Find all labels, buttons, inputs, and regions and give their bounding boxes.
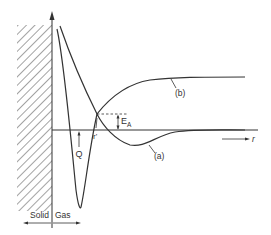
r-axis-label: r	[252, 134, 256, 144]
solid-label: Solid	[30, 210, 49, 220]
curve-b-leader	[171, 79, 176, 88]
r-prime-label: r'	[93, 132, 98, 141]
solid-arrow-head-icon	[23, 222, 28, 225]
solid-region-hatch	[17, 25, 52, 211]
ea-arrow-up-icon	[117, 115, 120, 119]
ea-label: EA	[121, 116, 132, 128]
gas-label: Gas	[55, 210, 71, 220]
ea-arrow-down-icon	[117, 126, 120, 130]
q-label: Q	[76, 149, 83, 159]
potential-energy-diagram: EA r' Q (b) (a) r Solid Gas	[0, 0, 271, 235]
curve-b	[60, 26, 245, 114]
curve-b-label: (b)	[175, 88, 186, 98]
energy-axis-arrow-icon	[50, 11, 55, 20]
curve-a-label: (a)	[154, 151, 165, 161]
q-arrow-up-icon	[78, 131, 81, 136]
curve-a	[57, 29, 245, 208]
gas-arrow-head-icon	[76, 222, 81, 225]
r-arrow-head-icon	[245, 138, 250, 141]
